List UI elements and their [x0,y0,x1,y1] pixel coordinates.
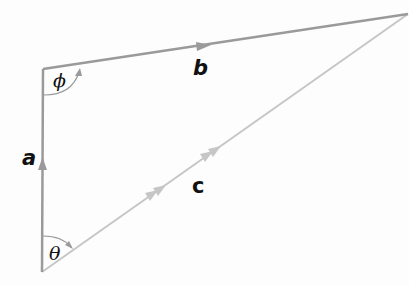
vector-c-double-arrow-1 [145,185,166,201]
angle-phi-arrowhead [75,68,82,76]
label-vector-a: a [22,148,36,169]
label-angle-phi: ϕ [53,71,66,90]
vector-triangle-diagram: b a c ϕ θ [0,0,409,285]
vector-a-arrow [38,157,47,170]
vector-b-line [43,14,408,69]
label-angle-theta: θ [49,244,60,263]
label-vector-c: c [192,176,204,197]
vector-a-line [42,69,43,272]
label-vector-b: b [193,58,208,79]
vector-c-line [42,14,408,272]
triangle-drawing [0,0,409,285]
